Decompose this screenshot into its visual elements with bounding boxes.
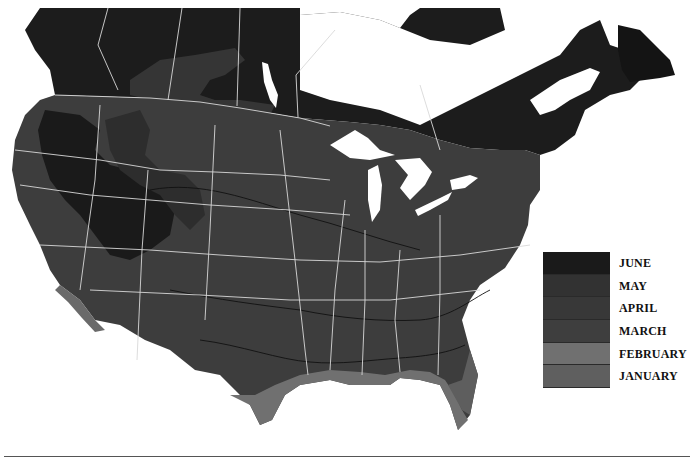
legend-label: JANUARY	[619, 369, 678, 384]
newfoundland-region	[618, 25, 675, 82]
hudson-bay	[300, 8, 420, 28]
north-america-map	[0, 0, 694, 460]
legend-swatch-june	[543, 252, 610, 275]
legend-item-april: APRIL	[543, 297, 693, 320]
legend-swatch-april	[543, 297, 610, 320]
legend-item-january: JANUARY	[543, 365, 693, 388]
legend-swatch-february	[543, 343, 610, 366]
legend-swatch-january	[543, 365, 610, 388]
legend-label: JUNE	[619, 256, 651, 271]
legend-label: APRIL	[619, 301, 657, 316]
map-legend: JUNE MAY APRIL MARCH FEBRUARY JANUARY	[543, 252, 693, 388]
bottom-divider	[4, 456, 690, 457]
legend-item-march: MARCH	[543, 320, 693, 343]
legend-item-june: JUNE	[543, 252, 693, 275]
legend-swatch-may	[543, 275, 610, 298]
legend-label: MAY	[619, 279, 647, 294]
legend-label: MARCH	[619, 324, 667, 339]
legend-item-february: FEBRUARY	[543, 343, 693, 366]
legend-swatch-march	[543, 320, 610, 343]
legend-label: FEBRUARY	[619, 347, 687, 362]
legend-item-may: MAY	[543, 275, 693, 298]
